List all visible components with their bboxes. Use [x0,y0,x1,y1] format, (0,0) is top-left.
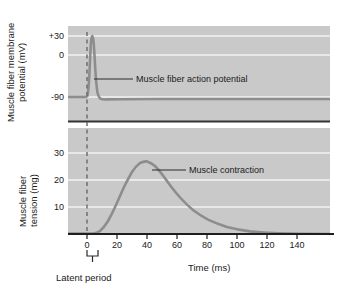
xtick-label-0: 0 [74,240,100,250]
action-potential-annotation: Muscle fiber action potential [136,74,248,84]
latent-period-bracket [87,250,98,256]
bottom-panel-background [68,128,330,234]
muscle-contraction-annotation: Muscle contraction [189,165,264,175]
xtick-label-120: 120 [254,240,280,250]
xtick-label-20: 20 [104,240,130,250]
latent-period-label: Latent period [56,272,111,283]
top-ytick-label-neg90: -90 [36,92,64,102]
bottom-ytick-label-10: 10 [40,202,64,212]
top-ytick-label-30: +30 [36,31,64,41]
xtick-label-60: 60 [164,240,190,250]
x-axis-title: Time (ms) [188,262,230,273]
xtick-label-100: 100 [224,240,250,250]
bottom-ytick-label-30: 30 [40,148,64,158]
xtick-label-140: 140 [284,240,310,250]
top-ytick-label-0: 0 [36,50,64,60]
top-panel-y-axis-title: Muscle fiber membrane potential (mV) [6,18,30,126]
bottom-panel-y-axis-title: Muscle fiber tension (mg) [18,158,42,244]
bottom-ytick-label-20: 20 [40,175,64,185]
xtick-label-80: 80 [194,240,220,250]
xtick-label-40: 40 [134,240,160,250]
